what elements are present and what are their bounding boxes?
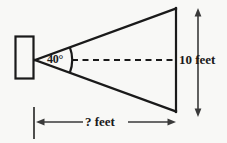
angle-label: 40° xyxy=(47,53,63,65)
angle-arc xyxy=(70,47,72,73)
figure-container: 40° 10 feet ? feet xyxy=(0,0,227,143)
cone-lower-ray xyxy=(35,60,176,112)
distance-arrowhead-left-icon xyxy=(36,119,45,126)
height-arrowhead-up-icon xyxy=(195,8,202,17)
projector-box-icon xyxy=(16,37,34,79)
height-arrowhead-down-icon xyxy=(195,109,202,118)
height-label: 10 feet xyxy=(179,53,215,66)
distance-label: ? feet xyxy=(85,115,115,128)
distance-arrowhead-right-icon xyxy=(168,119,177,126)
